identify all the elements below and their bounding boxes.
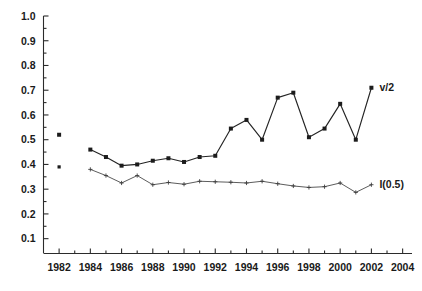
- x-tick-label: 2000: [328, 261, 352, 273]
- series-label-v-2: v/2: [379, 81, 394, 93]
- y-tick-label-group: 0.10.20.30.40.50.60.70.80.91.0: [21, 10, 36, 245]
- detached-data-point-marker: [58, 165, 61, 168]
- x-tick-label: 1982: [47, 261, 71, 273]
- y-tick-label: 0.1: [21, 232, 36, 244]
- x-tick-group: [59, 249, 403, 254]
- data-point-marker: [151, 159, 155, 163]
- y-axis: 0.10.20.30.40.50.60.70.80.91.0: [21, 10, 49, 253]
- x-axis: 1982198419861988199019921994199619982000…: [44, 249, 415, 273]
- series-label-group: v/2I(0.5): [379, 81, 404, 190]
- data-point-marker: [323, 127, 327, 131]
- series-label-i-0-5-: I(0.5): [379, 178, 404, 190]
- data-point-marker: [369, 86, 373, 90]
- x-tick-label: 2002: [360, 261, 384, 273]
- data-point-marker: [198, 155, 202, 159]
- data-point-marker: [229, 127, 233, 131]
- x-tick-label: 1996: [266, 261, 290, 273]
- x-tick-label-group: 1982198419861988199019921994199619982000…: [47, 261, 414, 273]
- data-point-marker: [354, 138, 358, 142]
- x-tick-label: 1994: [235, 261, 259, 273]
- data-point-marker: [213, 154, 217, 158]
- x-tick-label: 1988: [141, 261, 165, 273]
- y-tick-label: 0.5: [21, 133, 36, 145]
- data-point-marker: [182, 160, 186, 164]
- series-i-0-5-: [58, 165, 374, 194]
- x-tick-label: 1986: [110, 261, 134, 273]
- data-point-marker: [260, 138, 264, 142]
- x-tick-label: 2004: [391, 261, 415, 273]
- y-tick-group: [44, 16, 49, 239]
- data-point-marker: [244, 118, 248, 122]
- series-v-2: [57, 86, 373, 168]
- data-point-marker: [276, 96, 280, 100]
- y-tick-label: 0.2: [21, 208, 36, 220]
- data-point-marker: [166, 156, 170, 160]
- series-layer: [57, 86, 373, 195]
- y-tick-label: 0.6: [21, 109, 36, 121]
- x-tick-label: 1998: [297, 261, 321, 273]
- data-point-marker: [88, 148, 92, 152]
- data-point-marker: [291, 91, 295, 95]
- data-point-marker: [120, 164, 124, 168]
- x-tick-label: 1992: [204, 261, 228, 273]
- data-point-marker: [104, 155, 108, 159]
- y-tick-label: 0.4: [21, 158, 36, 170]
- data-point-marker: [135, 162, 139, 166]
- y-tick-label: 0.7: [21, 84, 36, 96]
- x-tick-label: 1984: [79, 261, 103, 273]
- y-tick-label: 0.8: [21, 59, 36, 71]
- x-tick-label: 1990: [172, 261, 196, 273]
- data-point-marker: [338, 102, 342, 106]
- detached-data-point-marker: [57, 133, 61, 137]
- data-point-marker: [307, 135, 311, 139]
- line-chart: 0.10.20.30.40.50.60.70.80.91.0 198219841…: [0, 0, 422, 291]
- chart-screenshot: 0.10.20.30.40.50.60.70.80.91.0 198219841…: [0, 0, 422, 291]
- y-tick-label: 0.9: [21, 35, 36, 47]
- y-tick-label: 0.3: [21, 183, 36, 195]
- y-tick-label: 1.0: [21, 10, 36, 22]
